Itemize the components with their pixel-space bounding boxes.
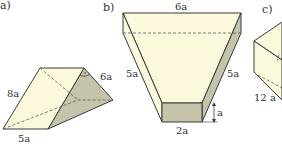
figure-c: c) 12 a [254,3,282,103]
figure-a-side-label: 6a [100,71,112,82]
arrow-up-icon [212,102,216,106]
figure-b-top-label: 6a [175,1,187,12]
figure-b-bottom-label: 2a [176,125,188,136]
arrow-down-icon [212,119,216,123]
figure-a-slant-label: 8a [7,88,19,99]
figure-b-height-label: a [217,107,223,118]
figure-c-label: c) [262,3,272,16]
figure-a-label: a) [0,0,11,12]
figure-b-right-label: 5a [227,68,239,79]
figure-b: b) 6a 5a 5a 2a a [103,1,241,136]
figure-c-edge-label: 12 a [254,92,276,103]
prism-diagrams: a) 8a 5a 6a b) 6a 5a 5a [0,0,282,149]
figure-a: a) 8a 5a 6a [0,0,113,144]
figure-b-bottom-face [162,103,202,122]
figure-b-left-label: 5a [126,68,138,79]
figure-b-label: b) [103,1,114,14]
right-angle-dot [84,72,86,74]
figure-a-base-label: 5a [18,133,30,144]
